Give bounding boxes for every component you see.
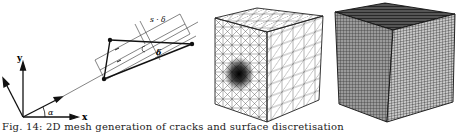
figure-caption: Fig. 14: 2D mesh generation of cracks an…: [2, 121, 344, 132]
figure: α y x: [0, 0, 460, 133]
projection-label: s · δ: [150, 15, 166, 24]
geometry-diagram: α y x: [0, 0, 200, 120]
layered-cube-mesh: [325, 0, 460, 125]
x-axis-label: x: [82, 112, 88, 120]
tetrahedral-cube-mesh: [205, 0, 330, 125]
angle-label: α: [48, 108, 54, 117]
refinement-spot: [224, 57, 254, 91]
y-axis-label: y: [16, 53, 23, 63]
offset-label: δ: [155, 47, 162, 57]
coordinate-axes: [3, 62, 78, 120]
